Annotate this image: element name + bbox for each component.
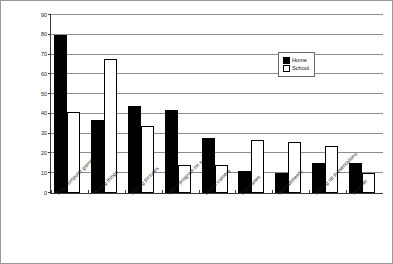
x-axis-tick-mark (125, 190, 126, 193)
bar-group: Spreadsheets (272, 15, 309, 193)
x-axis-tick-mark (51, 190, 52, 193)
x-axis-tick-mark (199, 190, 200, 193)
bar-home[interactable] (128, 106, 141, 193)
bar-group: Writing things (88, 15, 125, 193)
y-axis-tick-label: 20 (41, 151, 47, 156)
bar-group: Making pictures (125, 15, 162, 193)
chart-legend: HomeSchool (278, 52, 315, 77)
bar-group: Making up presentations (309, 15, 346, 193)
bar-group: Use a program on a CD (162, 15, 199, 193)
bar-home[interactable] (54, 35, 67, 193)
legend-item[interactable]: School (283, 65, 309, 72)
legend-swatch-icon (283, 57, 290, 64)
x-axis-tick-mark (88, 190, 89, 193)
bar-series-container: Play computer gamesWriting thingsMaking … (51, 15, 383, 193)
y-axis-tick-label: 0 (44, 190, 47, 195)
legend-item-label: School (292, 66, 309, 72)
y-axis-tick-label: 70 (41, 52, 47, 57)
chart-figure: 0102030405060708090 Play computer gamesW… (0, 0, 393, 264)
legend-item-label: Home (292, 58, 307, 64)
x-axis-tick-mark (346, 190, 347, 193)
y-axis-tick-label: 50 (41, 91, 47, 96)
x-axis-tick-mark (272, 190, 273, 193)
bar-group: Scanner (346, 15, 383, 193)
y-axis-tick-label: 60 (41, 72, 47, 77)
x-axis-tick-mark (309, 190, 310, 193)
x-axis-tick-mark (235, 190, 236, 193)
y-axis-tick-label: 10 (41, 171, 47, 176)
bar-group: Digital camera (199, 15, 236, 193)
bar-group: Play computer games (51, 15, 88, 193)
legend-item[interactable]: Home (283, 57, 309, 64)
y-axis-tick-label: 30 (41, 131, 47, 136)
y-axis-tick-label: 90 (41, 12, 47, 17)
plot-area: 0102030405060708090 Play computer gamesW… (50, 15, 383, 194)
y-axis-tick-label: 80 (41, 32, 47, 37)
x-axis-tick-mark (162, 190, 163, 193)
legend-swatch-icon (283, 65, 290, 72)
y-axis-tick-label: 40 (41, 111, 47, 116)
bar-group: Databases (235, 15, 272, 193)
